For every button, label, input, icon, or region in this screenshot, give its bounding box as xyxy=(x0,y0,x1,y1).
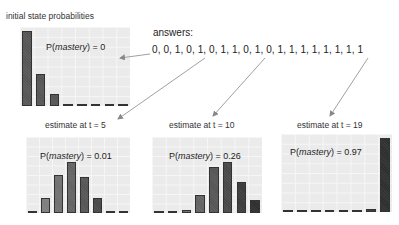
arrow-to-initial xyxy=(120,54,150,58)
arrow-to-t5 xyxy=(118,58,205,119)
arrow-to-t10 xyxy=(213,58,265,116)
arrow-to-t19 xyxy=(330,58,368,116)
arrows-layer xyxy=(0,0,399,225)
